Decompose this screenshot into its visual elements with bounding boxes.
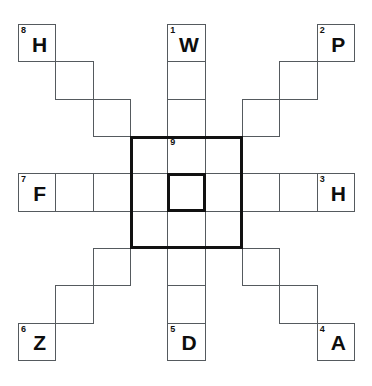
crossword-cell[interactable]	[279, 285, 317, 323]
crossword-cell[interactable]	[279, 61, 317, 99]
crossword-cell[interactable]: 8H	[18, 24, 56, 62]
crossword-cell[interactable]	[279, 173, 317, 211]
crossword-puzzle: 8H1W92P7F3H6Z5D4A	[0, 0, 372, 386]
cell-letter: D	[168, 324, 204, 360]
cell-letter: H	[19, 25, 55, 61]
crossword-cell[interactable]	[167, 248, 205, 286]
crossword-cell[interactable]: 4A	[317, 323, 355, 361]
crossword-cell[interactable]: 3H	[317, 173, 355, 211]
cell-letter: A	[318, 324, 354, 360]
crossword-cell[interactable]	[167, 61, 205, 99]
crossword-cell[interactable]: 6Z	[18, 323, 56, 361]
cell-letter: W	[168, 25, 204, 61]
cell-letter: Z	[19, 324, 55, 360]
crossword-cell[interactable]	[167, 211, 205, 249]
cell-letter: F	[19, 174, 55, 210]
crossword-cell[interactable]	[205, 173, 243, 211]
crossword-cell[interactable]	[167, 285, 205, 323]
cell-letter: H	[318, 174, 354, 210]
crossword-cell[interactable]	[242, 173, 280, 211]
crossword-grid: 8H1W92P7F3H6Z5D4A	[18, 24, 354, 363]
crossword-cell[interactable]	[242, 99, 280, 137]
crossword-cell[interactable]	[55, 285, 93, 323]
crossword-cell[interactable]	[242, 248, 280, 286]
crossword-cell[interactable]	[93, 173, 131, 211]
crossword-cell[interactable]: 9	[167, 136, 205, 174]
crossword-cell[interactable]	[167, 173, 205, 211]
crossword-cell[interactable]	[93, 248, 131, 286]
crossword-cell[interactable]	[205, 136, 243, 174]
crossword-cell[interactable]: 1W	[167, 24, 205, 62]
crossword-cell[interactable]	[130, 136, 168, 174]
crossword-cell[interactable]: 7F	[18, 173, 56, 211]
cell-letter: P	[318, 25, 354, 61]
crossword-cell[interactable]	[167, 99, 205, 137]
cell-number: 9	[170, 137, 175, 147]
crossword-cell[interactable]	[55, 61, 93, 99]
crossword-cell[interactable]: 5D	[167, 323, 205, 361]
crossword-cell[interactable]	[55, 173, 93, 211]
crossword-cell[interactable]	[205, 211, 243, 249]
crossword-cell[interactable]	[130, 173, 168, 211]
crossword-cell[interactable]: 2P	[317, 24, 355, 62]
crossword-cell[interactable]	[93, 99, 131, 137]
crossword-cell[interactable]	[130, 211, 168, 249]
